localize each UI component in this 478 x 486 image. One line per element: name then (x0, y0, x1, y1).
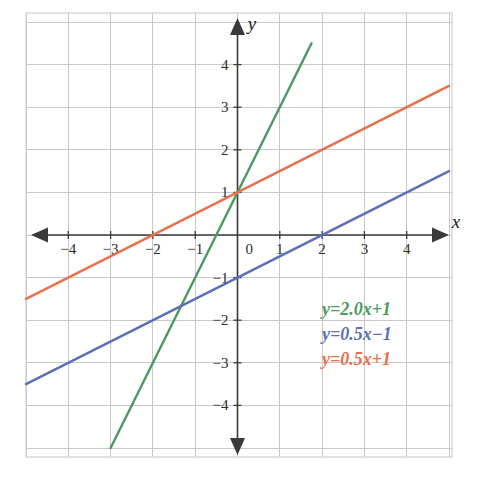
x-axis-label: x (451, 211, 461, 232)
x-tick-label: −4 (60, 241, 76, 257)
y-tick-label: −3 (213, 355, 229, 371)
y-tick-label: −2 (213, 312, 229, 328)
x-tick-label: −2 (145, 241, 161, 257)
y-tick-label: 2 (221, 142, 229, 158)
x-tick-label: 2 (318, 241, 326, 257)
x-tick-label: −1 (187, 241, 203, 257)
x-tick-label: 3 (361, 241, 369, 257)
legend: y=2.0x+1y=0.5x−1y=0.5x+1 (322, 297, 392, 372)
legend-item: y=2.0x+1 (322, 297, 392, 322)
legend-item: y=0.5x−1 (322, 322, 392, 347)
coordinate-plane-svg: −4−3−2−1012344321−1−2−3−4 x y (0, 0, 478, 486)
y-axis-label: y (246, 13, 257, 34)
x-tick-label: 4 (403, 241, 411, 257)
x-tick-label: 0 (246, 241, 254, 257)
y-tick-label: −4 (213, 397, 229, 413)
legend-item: y=0.5x+1 (322, 347, 392, 372)
linear-functions-graph: −4−3−2−1012344321−1−2−3−4 x y y=2.0x+1y=… (0, 0, 478, 486)
y-tick-label: 4 (221, 57, 229, 73)
y-tick-label: 3 (221, 99, 229, 115)
